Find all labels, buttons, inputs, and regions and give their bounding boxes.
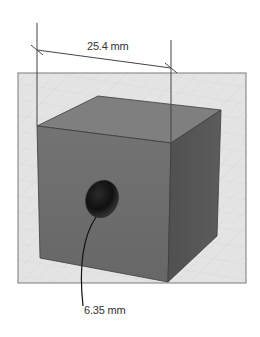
edge-length-label: 25.4 mm	[87, 40, 128, 52]
dimension-line	[37, 50, 171, 68]
hole-diameter-label: 6.35 mm	[84, 304, 125, 316]
cube-drawing	[0, 0, 260, 337]
cube	[37, 96, 221, 282]
